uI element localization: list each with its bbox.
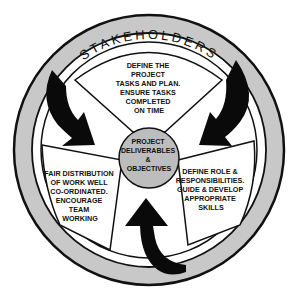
stakeholders-diagram: STAKEHOLDERS DEFINE THE PROJECT TASKS AN… <box>0 0 299 301</box>
